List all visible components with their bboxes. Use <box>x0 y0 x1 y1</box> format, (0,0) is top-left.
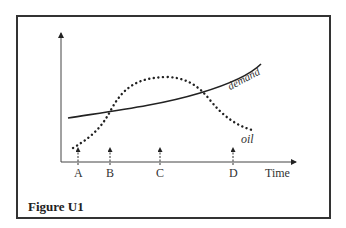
time-marker-d: D <box>229 167 238 179</box>
oil-label: oil <box>241 133 254 145</box>
diagram-canvas <box>0 0 346 228</box>
time-marker-a: A <box>74 167 83 179</box>
time-marker-b: B <box>106 167 114 179</box>
time-marker-c: C <box>156 167 164 179</box>
x-axis-label: Time <box>265 167 290 179</box>
figure-caption: Figure U1 <box>28 199 84 215</box>
